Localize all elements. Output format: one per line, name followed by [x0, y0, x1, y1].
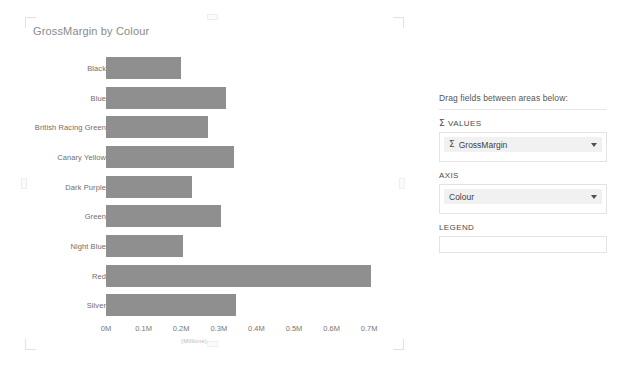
x-axis-units-label: (Millions): [181, 338, 207, 344]
x-axis-tick-label: 0.2M: [173, 324, 190, 333]
bar-category-label: Canary Yellow: [57, 152, 106, 161]
bar-fill[interactable]: [106, 176, 192, 198]
field-chip[interactable]: Colour: [444, 189, 602, 204]
chart-visual[interactable]: GrossMargin by Colour BlackBlueBritish R…: [25, 17, 404, 350]
bar-row[interactable]: British Racing Green: [25, 116, 404, 138]
bar-category-label: Blue: [91, 93, 106, 102]
bar-category-label: Dark Purple: [65, 182, 106, 191]
chevron-down-icon[interactable]: [591, 143, 597, 147]
field-well-legend: LEGEND: [439, 223, 607, 253]
bar-fill[interactable]: [106, 205, 221, 227]
bar-fill[interactable]: [106, 87, 226, 109]
x-axis-tick-label: 0.1M: [135, 324, 152, 333]
field-well-label: VALUES: [448, 119, 481, 128]
chart-plot-area: BlackBlueBritish Racing GreenCanary Yell…: [25, 53, 404, 320]
field-well-label: AXIS: [439, 171, 459, 180]
bar-row[interactable]: Black: [25, 57, 404, 79]
fields-pane: Drag fields between areas below: ΣVALUES…: [439, 93, 607, 253]
x-axis-tick-label: 0.3M: [210, 324, 227, 333]
chart-x-axis: (Millions) 0M0.1M0.2M0.3M0.4M0.5M0.6M0.7…: [25, 324, 404, 350]
bar-fill[interactable]: [106, 265, 371, 287]
field-chip-label: GrossMargin: [459, 140, 587, 150]
field-chip[interactable]: ΣGrossMargin: [444, 137, 602, 152]
bar-fill[interactable]: [106, 294, 236, 316]
x-axis-tick-label: 0.6M: [323, 324, 340, 333]
field-chip-label: Colour: [449, 192, 587, 202]
sigma-icon: Σ: [439, 119, 445, 128]
bar-category-label: Silver: [87, 301, 106, 310]
field-well-title-legend: LEGEND: [439, 223, 607, 232]
field-well-title-axis: AXIS: [439, 171, 607, 180]
bar-fill[interactable]: [106, 57, 181, 79]
bar-category-label: Black: [87, 63, 106, 72]
field-well-label: LEGEND: [439, 223, 474, 232]
bar-fill[interactable]: [106, 146, 234, 168]
field-well-title-values: ΣVALUES: [439, 119, 607, 128]
bar-category-label: Green: [85, 212, 106, 221]
bar-row[interactable]: Silver: [25, 294, 404, 316]
bar-fill[interactable]: [106, 116, 208, 138]
field-well-axis: AXISColour: [439, 171, 607, 214]
bar-category-label: Red: [92, 271, 106, 280]
bar-category-label: British Racing Green: [35, 123, 106, 132]
field-drop-zone-legend[interactable]: [439, 236, 607, 253]
bar-category-label: Night Blue: [70, 241, 106, 250]
fields-pane-header: Drag fields between areas below:: [439, 93, 607, 110]
bar-row[interactable]: Blue: [25, 87, 404, 109]
x-axis-tick-label: 0M: [101, 324, 111, 333]
bar-row[interactable]: Green: [25, 205, 404, 227]
chart-title: GrossMargin by Colour: [33, 25, 149, 37]
bar-fill[interactable]: [106, 235, 183, 257]
x-axis-tick-label: 0.5M: [286, 324, 303, 333]
x-axis-tick-label: 0.7M: [361, 324, 378, 333]
bar-row[interactable]: Night Blue: [25, 235, 404, 257]
x-axis-tick-label: 0.4M: [248, 324, 265, 333]
sigma-icon: Σ: [449, 140, 455, 149]
fields-wells-container: ΣVALUESΣGrossMarginAXISColourLEGEND: [439, 119, 607, 253]
chevron-down-icon[interactable]: [591, 195, 597, 199]
bar-row[interactable]: Canary Yellow: [25, 146, 404, 168]
field-drop-zone-values[interactable]: ΣGrossMargin: [439, 132, 607, 162]
field-well-values: ΣVALUESΣGrossMargin: [439, 119, 607, 162]
field-drop-zone-axis[interactable]: Colour: [439, 184, 607, 214]
bar-row[interactable]: Dark Purple: [25, 176, 404, 198]
bar-row[interactable]: Red: [25, 265, 404, 287]
